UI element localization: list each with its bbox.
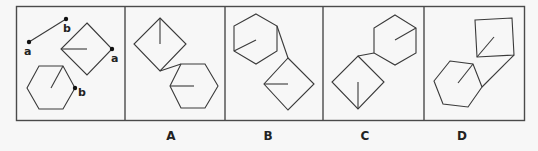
hexagon-inner-line [395,28,416,40]
segment-point-a-label: a [24,45,31,58]
option-b-label[interactable]: B [258,129,278,143]
hexagon-inner-line [458,64,473,83]
segment-point-b-label: b [63,22,71,35]
hexagon-inner-line [51,66,63,88]
hexagon-shape [434,61,482,107]
square-point-a-label: a [111,52,118,65]
option-c-label[interactable]: C [355,129,375,143]
hexagon-point-b-dot [73,86,77,90]
square-inner-line [477,37,494,57]
square-shape [475,18,514,57]
point-b-dot [64,17,68,21]
option-a-label[interactable]: A [161,129,181,143]
square-point-a-dot [110,47,114,51]
given-panel: a b a b [24,17,118,109]
connector-segment [29,19,66,42]
option-a-figure[interactable] [134,18,218,108]
hexagon-shape [234,14,277,64]
hexagon-inner-line [234,40,256,51]
connector-segment [482,55,514,87]
hexagon-point-b-label: b [78,86,86,99]
connector-segment [358,53,374,56]
connector-segment [277,26,288,58]
option-d-label[interactable]: D [452,129,472,143]
option-c-figure[interactable] [332,15,416,109]
option-b-figure[interactable] [234,14,314,110]
option-d-figure[interactable] [434,18,514,107]
point-a-dot [27,40,31,44]
